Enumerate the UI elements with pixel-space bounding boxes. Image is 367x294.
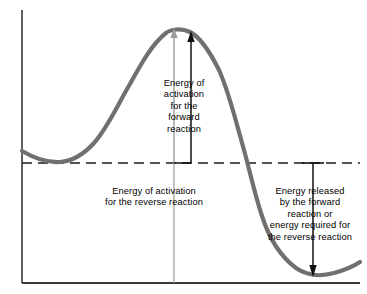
- reverse-activation-label-line-2: for the reverse reaction: [61, 197, 247, 208]
- energy-released-label-line-1: Energy released: [254, 186, 366, 197]
- reverse-activation-label: Energy of activation for the reverse rea…: [61, 186, 247, 209]
- forward-activation-label-line-2: activation: [149, 89, 219, 100]
- energy-diagram: Energy of activation for the forward rea…: [0, 0, 367, 294]
- energy-released-label-line-2: by the forward: [254, 197, 366, 208]
- energy-released-label-line-4: energy required for: [254, 220, 366, 231]
- forward-activation-label: Energy of activation for the forward rea…: [149, 78, 219, 135]
- forward-activation-label-line-4: forward: [149, 112, 219, 123]
- forward-activation-label-line-3: for the: [149, 101, 219, 112]
- energy-released-label: Energy released by the forward reaction …: [254, 186, 366, 243]
- energy-released-label-line-5: the reverse reaction: [254, 232, 366, 243]
- energy-released-label-line-3: reaction or: [254, 209, 366, 220]
- energy-profile-plot: [0, 0, 367, 294]
- forward-activation-label-line-5: reaction: [149, 124, 219, 135]
- forward-activation-label-line-1: Energy of: [149, 78, 219, 89]
- reverse-activation-label-line-1: Energy of activation: [61, 186, 247, 197]
